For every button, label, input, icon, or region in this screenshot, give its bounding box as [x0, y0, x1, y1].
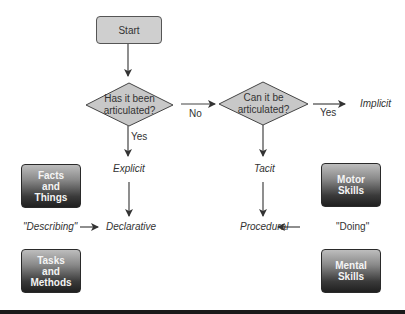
tasks-line2: and: [42, 266, 60, 277]
outcome-procedural: Procedural: [240, 221, 288, 233]
decision2-text: Can it be articulated?: [219, 92, 308, 116]
motor-line2: Skills: [338, 185, 364, 196]
box-tasks-and-methods: Tasks and Methods: [21, 249, 81, 293]
decision1-line1: Has it been: [86, 93, 173, 105]
box-mental-skills: Mental Skills: [321, 249, 381, 293]
mental-line2: Skills: [338, 271, 364, 282]
facts-line2: and: [42, 181, 60, 192]
tasks-line1: Tasks: [37, 255, 65, 266]
box-facts-and-things: Facts and Things: [21, 164, 81, 208]
edge-label-yes-right: Yes: [320, 107, 336, 119]
knowledge-flowchart: Start Has it been articulated? Can it be…: [0, 0, 405, 314]
motor-line1: Motor: [337, 174, 365, 185]
outcome-declarative: Declarative: [106, 221, 156, 233]
outcome-explicit: Explicit: [113, 163, 145, 175]
decision2-line2: articulated?: [219, 104, 308, 116]
box-motor-skills: Motor Skills: [321, 163, 381, 207]
start-node: Start: [96, 16, 162, 44]
decision1-text: Has it been articulated?: [86, 93, 173, 117]
label-doing: "Doing": [336, 221, 369, 233]
decision1-line2: articulated?: [86, 105, 173, 117]
edge-label-yes-down: Yes: [131, 131, 147, 143]
label-describing: "Describing": [23, 221, 77, 233]
facts-line3: Things: [35, 192, 68, 203]
outcome-tacit: Tacit: [254, 163, 275, 175]
outcome-implicit: Implicit: [360, 98, 391, 110]
tasks-line3: Methods: [30, 277, 71, 288]
facts-line1: Facts: [38, 170, 64, 181]
edge-label-no: No: [189, 108, 202, 120]
bottom-rule: [0, 310, 405, 314]
mental-line1: Mental: [335, 260, 367, 271]
decision2-line1: Can it be: [219, 92, 308, 104]
start-label: Start: [118, 25, 139, 36]
